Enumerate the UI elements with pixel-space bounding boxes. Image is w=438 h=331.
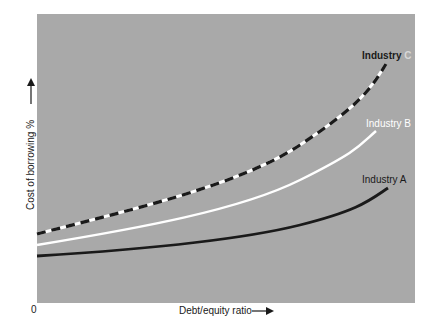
chart: Industry C Industry B Industry A Cost of… bbox=[0, 0, 438, 331]
plot-area bbox=[37, 14, 415, 303]
industry-b-label: Industry B bbox=[366, 118, 411, 129]
origin-label: 0 bbox=[31, 304, 37, 315]
x-axis-label: Debt/equity ratio bbox=[179, 305, 252, 316]
industry-a-label: Industry A bbox=[362, 174, 407, 185]
x-axis-arrow-icon bbox=[266, 307, 274, 315]
y-axis-label-group: Cost of borrowing % bbox=[25, 78, 36, 210]
y-axis-arrow-icon bbox=[27, 78, 35, 86]
industry-c-label: Industry C bbox=[362, 50, 411, 61]
y-axis-label: Cost of borrowing % bbox=[25, 120, 36, 210]
